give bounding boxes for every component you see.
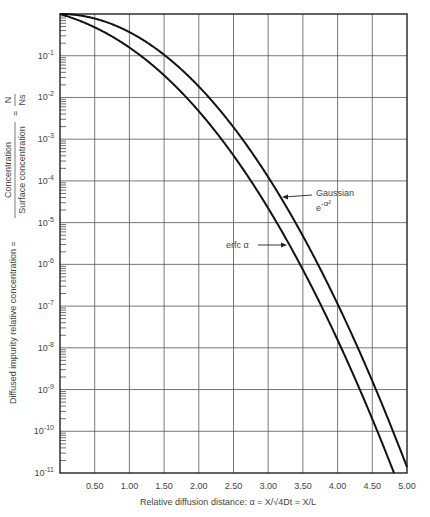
x-tick-label: 1.00 — [121, 481, 139, 491]
erfc-annotation: erfc α — [226, 240, 287, 250]
y-tick-label: 10-11 — [34, 466, 54, 478]
x-tick-label: 5.00 — [398, 481, 416, 491]
y-tick-label: 10-10 — [34, 424, 54, 436]
gaussian-annotation: Gaussian e-α² — [282, 188, 354, 213]
y-axis-title-numerator: Concentration — [3, 142, 13, 198]
y-axis-title-frac-num: N — [3, 97, 13, 104]
x-tick-label: 3.00 — [259, 481, 277, 491]
y-tick-labels: 10-110-210-310-410-510-610-710-810-910-1… — [34, 49, 54, 478]
gaussian-arrow — [284, 195, 312, 197]
y-tick-label: 10-5 — [38, 216, 54, 228]
minor-ticks — [60, 16, 66, 461]
x-tick-label: 2.50 — [225, 481, 243, 491]
y-tick-label: 10-3 — [38, 132, 54, 144]
x-tick-label: 0.50 — [86, 481, 104, 491]
y-axis-title: Diffused impurity relative concentration… — [3, 94, 27, 404]
y-axis-title-eq: = — [10, 111, 20, 116]
y-tick-label: 10-7 — [38, 299, 54, 311]
erfc-label: erfc α — [226, 240, 249, 250]
gaussian-label: Gaussian — [316, 188, 354, 198]
y-tick-label: 10-9 — [38, 383, 54, 395]
y-tick-label: 10-8 — [38, 341, 54, 353]
chart: 10-110-210-310-410-510-610-710-810-910-1… — [0, 0, 430, 517]
gaussian-formula: e-α² — [316, 199, 331, 213]
y-axis-title-denominator: Surface concentration — [17, 126, 27, 214]
gaussian-arrowhead-icon — [282, 195, 288, 200]
y-tick-label: 10-2 — [38, 90, 54, 102]
x-tick-label: 3.50 — [294, 481, 312, 491]
y-tick-label: 10-4 — [38, 174, 54, 186]
x-tick-label: 1.50 — [155, 481, 173, 491]
y-tick-label: 10-1 — [38, 49, 54, 61]
x-tick-label: 4.50 — [364, 481, 382, 491]
y-axis-title-frac-den: Ns — [17, 94, 27, 105]
y-axis-title-prefix: Diffused impurity relative concentration… — [8, 241, 18, 404]
erfc-arrowhead-icon — [281, 243, 287, 248]
x-axis-title: Relative diffusion distance: α = X/√4Dt … — [140, 497, 316, 507]
x-tick-label: 2.00 — [190, 481, 208, 491]
x-tick-label: 4.00 — [329, 481, 347, 491]
y-tick-label: 10-6 — [38, 257, 54, 269]
x-tick-labels: 0.501.001.502.002.503.003.504.004.505.00 — [86, 481, 416, 491]
